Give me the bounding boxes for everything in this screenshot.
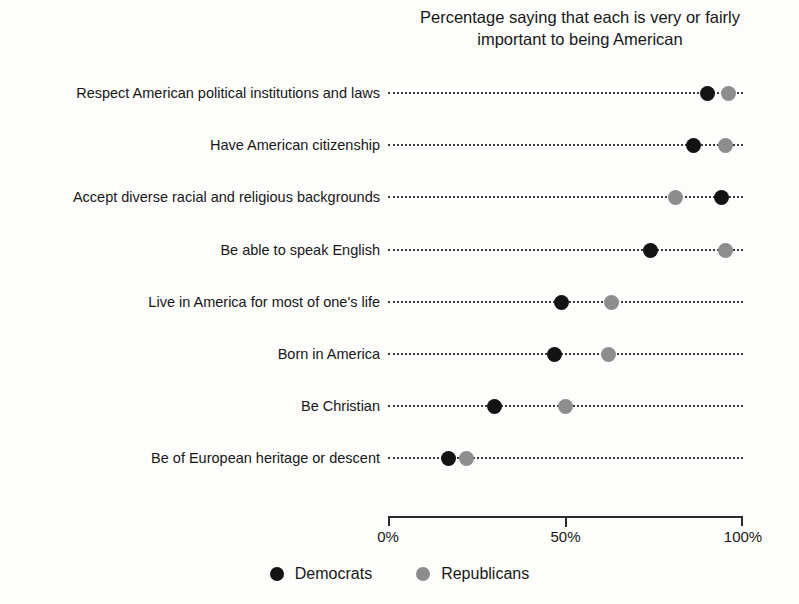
chart-row: Be Christian bbox=[0, 393, 799, 419]
category-label: Respect American political institutions … bbox=[76, 80, 380, 106]
x-axis-tick-label: 0% bbox=[377, 528, 399, 545]
data-point-democrats[interactable] bbox=[441, 451, 456, 466]
x-axis-tick-label: 50% bbox=[550, 528, 580, 545]
chart-row: Be of European heritage or descent bbox=[0, 445, 799, 471]
legend-item-democrats[interactable]: Democrats bbox=[270, 565, 372, 583]
chart-legend: DemocratsRepublicans bbox=[0, 565, 799, 583]
category-label: Have American citizenship bbox=[210, 132, 380, 158]
data-point-republicans[interactable] bbox=[459, 451, 474, 466]
data-point-democrats[interactable] bbox=[714, 190, 729, 205]
legend-item-republicans[interactable]: Republicans bbox=[416, 565, 529, 583]
data-point-republicans[interactable] bbox=[718, 138, 733, 153]
x-axis bbox=[388, 516, 743, 526]
chart-row: Live in America for most of one's life bbox=[0, 289, 799, 315]
data-point-democrats[interactable] bbox=[547, 347, 562, 362]
row-guide-line bbox=[388, 353, 743, 357]
row-guide-line bbox=[388, 92, 743, 96]
data-point-republicans[interactable] bbox=[668, 190, 683, 205]
legend-swatch-icon bbox=[416, 567, 430, 581]
x-axis-tick-label: 100% bbox=[724, 528, 762, 545]
chart-row: Respect American political institutions … bbox=[0, 80, 799, 106]
data-point-republicans[interactable] bbox=[718, 243, 733, 258]
chart-row: Have American citizenship bbox=[0, 132, 799, 158]
data-point-democrats[interactable] bbox=[554, 295, 569, 310]
data-point-republicans[interactable] bbox=[601, 347, 616, 362]
chart-row: Be able to speak English bbox=[0, 237, 799, 263]
row-guide-line bbox=[388, 196, 743, 200]
data-point-democrats[interactable] bbox=[643, 243, 658, 258]
row-guide-line bbox=[388, 249, 743, 253]
data-point-democrats[interactable] bbox=[487, 399, 502, 414]
data-point-democrats[interactable] bbox=[700, 86, 715, 101]
legend-label: Republicans bbox=[441, 565, 529, 583]
chart-row: Born in America bbox=[0, 341, 799, 367]
legend-swatch-icon bbox=[270, 567, 284, 581]
category-label: Be able to speak English bbox=[220, 237, 380, 263]
x-axis-mid-tick bbox=[565, 518, 567, 527]
data-point-democrats[interactable] bbox=[686, 138, 701, 153]
data-point-republicans[interactable] bbox=[604, 295, 619, 310]
legend-label: Democrats bbox=[295, 565, 372, 583]
category-label: Be of European heritage or descent bbox=[151, 445, 380, 471]
chart-row: Accept diverse racial and religious back… bbox=[0, 184, 799, 210]
category-label: Born in America bbox=[278, 341, 380, 367]
category-label: Live in America for most of one's life bbox=[148, 289, 380, 315]
plot-area: Respect American political institutions … bbox=[0, 0, 799, 604]
data-point-republicans[interactable] bbox=[558, 399, 573, 414]
category-label: Be Christian bbox=[301, 393, 380, 419]
category-label: Accept diverse racial and religious back… bbox=[73, 184, 380, 210]
data-point-republicans[interactable] bbox=[721, 86, 736, 101]
